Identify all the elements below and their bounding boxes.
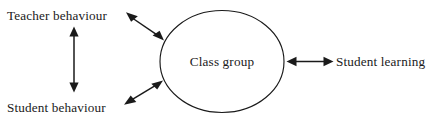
label-student-behaviour: Student behaviour: [7, 100, 106, 115]
connector-class-group-student-learning: [287, 57, 334, 67]
arrow-head-up-teacher-behaviour: [69, 27, 78, 37]
connector-teacher-behaviour-class-group: [126, 12, 164, 40]
arrow-head-toward-student-behaviour: [124, 96, 136, 105]
diagram-canvas: Class group Teacher behaviour Student be…: [0, 0, 442, 124]
connector-line-teacher-class: [133, 19, 157, 35]
label-student-learning: Student learning: [336, 54, 425, 69]
connector-line-student-class: [132, 85, 156, 99]
class-group-label: Class group: [190, 54, 255, 69]
arrow-head-down-student-behaviour: [69, 83, 78, 93]
concept-diagram: Class group Teacher behaviour Student be…: [0, 0, 442, 124]
arrow-head-toward-student-learning: [324, 57, 334, 67]
connector-student-behaviour-class-group: [124, 80, 163, 104]
connector-teacher-student-behaviour: [69, 27, 78, 93]
arrow-head-toward-class-group-right: [287, 57, 297, 67]
arrow-head-toward-class-group-lower: [151, 80, 163, 89]
label-teacher-behaviour: Teacher behaviour: [7, 8, 108, 23]
